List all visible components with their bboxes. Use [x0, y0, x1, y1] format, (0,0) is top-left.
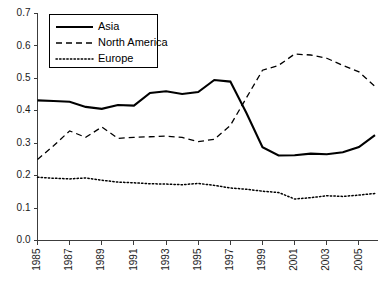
y-tick-label: 0.2 — [17, 169, 31, 180]
y-tick-label: 0.1 — [17, 202, 31, 213]
x-tick-label: 2001 — [288, 248, 299, 271]
y-axis-ticks — [34, 14, 38, 241]
x-axis-ticks — [38, 241, 359, 245]
legend-label-asia: Asia — [98, 20, 120, 32]
legend-label-europe: Europe — [98, 52, 133, 64]
x-axis-tick-labels: 1985198719891991199319951997199920012003… — [31, 248, 363, 271]
y-tick-label: 0.7 — [17, 7, 31, 18]
x-tick-label: 2003 — [320, 248, 331, 271]
line-chart-figure: 0.00.10.20.30.40.50.60.7 198519871989199… — [0, 0, 385, 295]
series-line-asia — [38, 80, 376, 156]
y-tick-label: 0.3 — [17, 137, 31, 148]
x-tick-label: 1995 — [192, 248, 203, 271]
y-tick-label: 0.0 — [17, 234, 31, 245]
x-tick-label: 1987 — [63, 248, 74, 271]
x-tick-label: 1999 — [256, 248, 267, 271]
chart-series-group — [38, 54, 376, 199]
legend-label-north-america: North America — [98, 36, 169, 48]
y-tick-label: 0.6 — [17, 40, 31, 51]
series-line-europe — [38, 177, 376, 199]
x-tick-label: 1989 — [95, 248, 106, 271]
chart-canvas: 0.00.10.20.30.40.50.60.7 198519871989199… — [0, 0, 385, 295]
x-tick-label: 2005 — [353, 248, 364, 271]
y-axis-tick-labels: 0.00.10.20.30.40.50.60.7 — [17, 7, 31, 245]
chart-legend: Asia North America Europe — [50, 15, 169, 68]
x-tick-label: 1993 — [160, 248, 171, 271]
x-tick-label: 1985 — [31, 248, 42, 271]
y-tick-label: 0.4 — [17, 104, 31, 115]
x-tick-label: 1991 — [128, 248, 139, 271]
y-tick-label: 0.5 — [17, 72, 31, 83]
x-tick-label: 1997 — [224, 248, 235, 271]
